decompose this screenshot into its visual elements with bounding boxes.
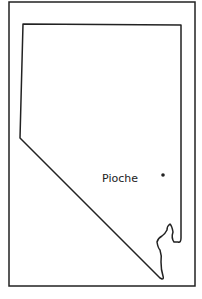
nevada-map: Pioche bbox=[0, 0, 202, 299]
map-frame bbox=[9, 2, 195, 286]
nevada-outline bbox=[20, 24, 181, 279]
pioche-label: Pioche bbox=[102, 172, 138, 185]
pioche-marker bbox=[161, 173, 165, 177]
